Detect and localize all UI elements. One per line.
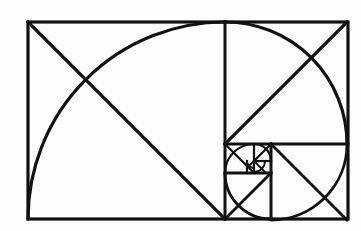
fibonacci-spiral-svg — [0, 0, 361, 231]
figure-background — [0, 0, 361, 231]
golden-ratio-figure: Golden Ratio Fibonacci Spiral Constructi… — [0, 0, 361, 231]
